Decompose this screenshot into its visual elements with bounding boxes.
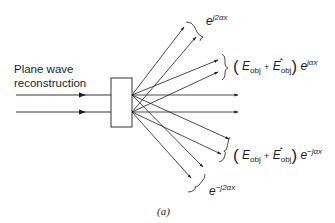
input-label-line1: Plane wave	[14, 62, 73, 76]
hologram-reconstruction-diagram	[0, 0, 335, 223]
plus2-exponent: j2αx	[213, 13, 228, 22]
hologram-plate	[111, 78, 132, 127]
minus2-exponent: −j2αx	[216, 183, 235, 192]
ray-minus2-a	[132, 95, 203, 167]
brace-plus1	[222, 54, 228, 80]
minus2-base: e	[209, 184, 216, 198]
label-plus1-order: ( Eobj + E*obj) ejαx	[233, 56, 317, 78]
label-plus2-order: ej2αx	[206, 11, 227, 28]
plus2-base: e	[206, 14, 213, 28]
ray-minus1-a	[132, 95, 229, 139]
label-minus1-order: ( Eobj + E*obj) e−jαx	[233, 145, 322, 167]
input-label-line2: reconstruction	[14, 76, 86, 90]
ray-minus1-b	[132, 112, 221, 154]
brace-minus2	[188, 174, 205, 192]
order-braces	[186, 22, 230, 192]
incoming-plane-wave	[16, 93, 111, 115]
minus1-exponent: −jαx	[307, 147, 322, 156]
brace-minus1	[219, 137, 230, 162]
plus1-exponent: jαx	[307, 58, 317, 67]
ray-minus2-b	[132, 112, 191, 178]
diffracted-rays	[132, 27, 238, 178]
label-minus2-order: e−j2αx	[209, 181, 235, 198]
ray-plus2-b	[132, 37, 196, 112]
figure-caption: (a)	[157, 205, 170, 217]
